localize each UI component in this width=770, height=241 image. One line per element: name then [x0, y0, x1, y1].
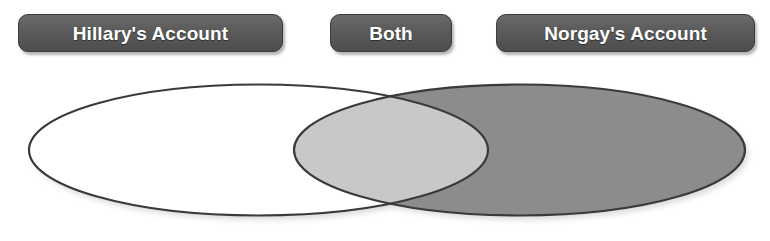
- label-pill-both: Both: [330, 14, 452, 52]
- label-pill-left-text: Hillary's Account: [73, 24, 228, 43]
- label-pill-both-text: Both: [369, 24, 413, 43]
- label-pill-right: Norgay's Account: [496, 14, 755, 52]
- label-pill-right-text: Norgay's Account: [544, 24, 707, 43]
- label-pill-left: Hillary's Account: [18, 14, 283, 52]
- venn-diagram-figure: Hillary's Account Both Norgay's Account: [0, 0, 770, 241]
